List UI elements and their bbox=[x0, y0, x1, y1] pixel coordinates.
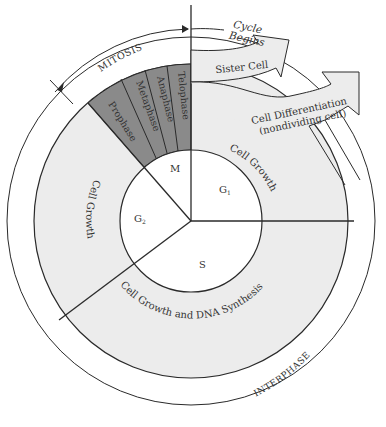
mitosis-arrowhead-right bbox=[182, 25, 189, 33]
m-phase-label: M bbox=[170, 163, 180, 174]
svg-text:2: 2 bbox=[142, 218, 146, 225]
s-phase-label: S bbox=[199, 259, 206, 270]
svg-text:G: G bbox=[219, 184, 227, 195]
svg-text:G: G bbox=[134, 213, 142, 224]
cell-cycle-diagram: MITOSIS INTERPHASE Cycle Begins Sister C… bbox=[0, 0, 386, 427]
cycle-begins-line bbox=[191, 29, 224, 30]
svg-text:1: 1 bbox=[227, 189, 231, 196]
